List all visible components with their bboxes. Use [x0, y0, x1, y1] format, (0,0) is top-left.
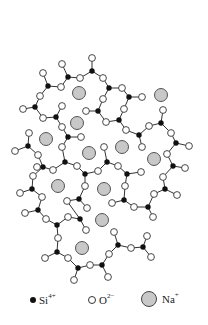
o-ion	[40, 70, 47, 77]
si-ion	[53, 114, 58, 119]
na-ion	[76, 242, 89, 255]
o-ion	[182, 165, 189, 172]
o-ion	[95, 168, 102, 175]
oxygen-ions	[12, 55, 193, 284]
o-ion	[74, 163, 81, 170]
si-ion	[115, 242, 120, 247]
si-ion	[158, 120, 163, 125]
si-ion	[140, 244, 145, 249]
na-ion	[116, 141, 129, 154]
o-ion	[82, 183, 89, 190]
si-ion	[173, 140, 178, 145]
o-ion	[146, 123, 153, 130]
si-ion	[170, 163, 175, 168]
silicate-glass-network-diagram	[0, 0, 208, 325]
na-ion	[155, 89, 168, 102]
o-ion	[39, 194, 46, 201]
na-ion	[96, 214, 109, 227]
o-ion	[65, 255, 72, 262]
na-circle-icon	[141, 291, 157, 307]
o-ion	[168, 130, 175, 137]
o-ion	[131, 204, 138, 211]
o-ion	[119, 85, 126, 92]
si-ion	[54, 222, 59, 227]
o-ion	[22, 210, 29, 217]
si-ion	[116, 117, 121, 122]
o-ion	[138, 169, 145, 176]
o-ion	[111, 229, 118, 236]
si-ion	[126, 94, 131, 99]
na-ion	[98, 183, 111, 196]
o-ion	[20, 106, 27, 113]
legend: Si4+ O2− Na+	[0, 294, 208, 314]
na-ion	[52, 180, 65, 193]
o-ion	[160, 107, 167, 114]
si-ion	[136, 132, 141, 137]
o-ion	[65, 214, 72, 221]
o-ion	[59, 124, 66, 131]
si-ion	[77, 216, 82, 221]
o-ion	[128, 245, 135, 252]
si-ion	[29, 186, 34, 191]
o-ion	[59, 144, 66, 151]
o-ion	[106, 251, 113, 258]
o-ion	[105, 274, 112, 281]
si-ion	[65, 134, 70, 139]
o-ion	[109, 200, 116, 207]
o-ion	[103, 119, 110, 126]
si-ion	[89, 68, 94, 73]
o-ion	[55, 235, 62, 242]
legend-item-na: Na+	[141, 291, 179, 307]
na-ion	[71, 117, 84, 130]
o-ion	[144, 233, 151, 240]
o-ion	[30, 173, 37, 180]
si-ion	[145, 204, 150, 209]
si-ion	[121, 197, 126, 202]
o-ion	[139, 144, 146, 151]
o-ion	[164, 151, 171, 158]
si-ion	[62, 159, 67, 164]
na-ion	[40, 133, 53, 146]
si-ion	[95, 108, 100, 113]
si-ion	[40, 164, 45, 169]
o-ion	[122, 183, 129, 190]
o-ion	[150, 214, 157, 221]
o-ion	[160, 174, 167, 181]
si-ion	[106, 85, 111, 90]
si-ion	[104, 159, 109, 164]
o-ion	[58, 84, 65, 91]
o-ion	[123, 127, 130, 134]
si-ion	[99, 262, 104, 267]
o-ion	[59, 103, 66, 110]
o-ion	[139, 94, 146, 101]
si-ion	[54, 249, 59, 254]
o-ion	[12, 148, 19, 155]
o-ion	[84, 205, 91, 212]
o-ion	[37, 93, 44, 100]
o-ion	[71, 277, 78, 284]
si-dot-icon	[30, 297, 36, 303]
legend-label-o: O2−	[99, 294, 114, 306]
o-ion	[64, 198, 71, 205]
o-ion	[148, 254, 155, 261]
si-ion	[65, 74, 70, 79]
o-ion	[26, 130, 33, 137]
o-ion	[101, 144, 108, 151]
o-ion	[43, 216, 50, 223]
si-ion	[45, 83, 50, 88]
o-ion	[100, 96, 107, 103]
si-ion	[82, 171, 87, 176]
o-ion	[89, 55, 96, 62]
o-ion	[34, 164, 41, 171]
o-ion	[100, 75, 107, 82]
o-ion	[50, 167, 57, 174]
na-ion	[73, 87, 86, 100]
si-ion	[32, 104, 37, 109]
na-ion	[148, 153, 161, 166]
o-ion	[121, 106, 128, 113]
si-ion	[124, 171, 129, 176]
legend-label-si: Si4+	[39, 294, 56, 306]
si-ion	[25, 143, 30, 148]
na-ion	[83, 147, 96, 160]
o-ion	[17, 190, 24, 197]
